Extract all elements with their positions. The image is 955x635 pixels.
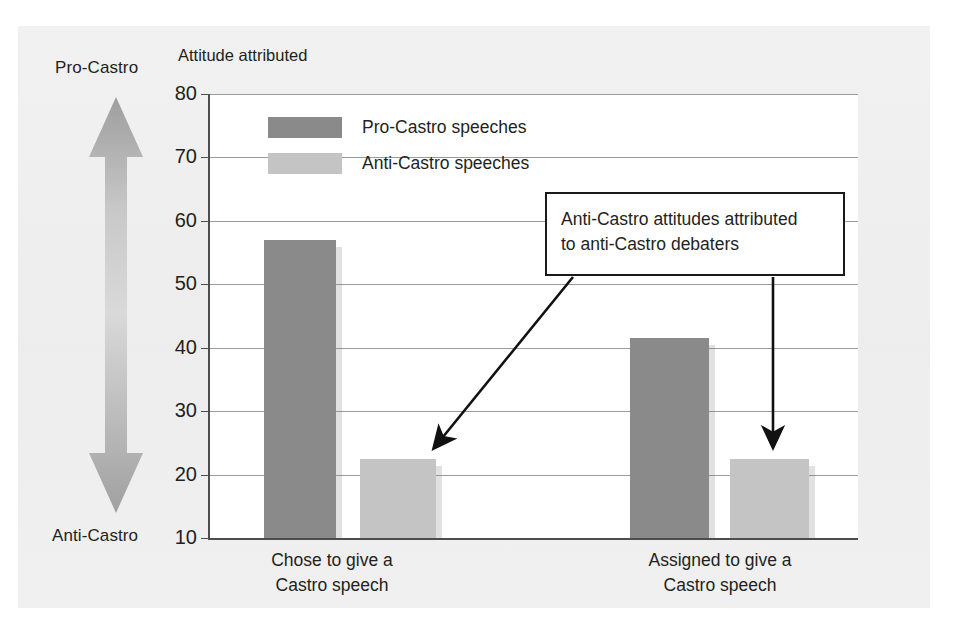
bar-body bbox=[730, 459, 809, 538]
bar-pro-castro-assigned bbox=[630, 338, 715, 538]
bar-anti-castro-chose bbox=[360, 459, 442, 538]
ytick-label-30: 30 bbox=[155, 399, 197, 422]
legend-label-anti-castro: Anti-Castro speeches bbox=[362, 153, 529, 174]
legend-swatch-pro-castro bbox=[268, 117, 342, 138]
category-label-line1: Chose to give a bbox=[222, 548, 442, 573]
tick-60 bbox=[201, 221, 210, 222]
scale-bottom-label: Anti-Castro bbox=[52, 526, 138, 546]
bar-body bbox=[630, 338, 709, 538]
bar-body bbox=[360, 459, 436, 538]
tick-30 bbox=[201, 411, 210, 412]
ytick-label-10: 10 bbox=[155, 526, 197, 549]
plot-area: Pro-Castro speeches Anti-Castro speeches bbox=[208, 94, 858, 540]
axis-title: Attitude attributed bbox=[178, 46, 307, 65]
legend-label-pro-castro: Pro-Castro speeches bbox=[362, 117, 526, 138]
legend-swatch-anti-castro bbox=[268, 153, 342, 174]
tick-50 bbox=[201, 284, 210, 285]
gridline-80 bbox=[210, 94, 858, 95]
tick-40 bbox=[201, 348, 210, 349]
figure-root: Attitude attributed Pro-Castro Anti-Cast… bbox=[0, 0, 955, 635]
legend-item-anti-castro: Anti-Castro speeches bbox=[268, 148, 529, 178]
tick-70 bbox=[201, 157, 210, 158]
legend: Pro-Castro speeches Anti-Castro speeches bbox=[268, 112, 529, 184]
category-label-line1: Assigned to give a bbox=[600, 548, 840, 573]
ytick-label-80: 80 bbox=[155, 82, 197, 105]
annotation-line-2: to anti-Castro debaters bbox=[561, 232, 843, 257]
ytick-label-50: 50 bbox=[155, 272, 197, 295]
tick-20 bbox=[201, 475, 210, 476]
bar-pro-castro-chose bbox=[264, 240, 342, 538]
category-label-line2: Castro speech bbox=[600, 573, 840, 598]
category-label-line2: Castro speech bbox=[222, 573, 442, 598]
bar-body bbox=[264, 240, 336, 538]
annotation-callout: Anti-Castro attitudes attributed to anti… bbox=[545, 192, 845, 276]
ytick-label-60: 60 bbox=[155, 209, 197, 232]
annotation-line-1: Anti-Castro attitudes attributed bbox=[561, 207, 843, 232]
scale-top-label: Pro-Castro bbox=[55, 58, 138, 78]
tick-80 bbox=[201, 94, 210, 95]
category-label-assigned: Assigned to give a Castro speech bbox=[600, 548, 840, 598]
tick-10 bbox=[201, 538, 210, 539]
ytick-label-20: 20 bbox=[155, 463, 197, 486]
ytick-label-40: 40 bbox=[155, 336, 197, 359]
legend-item-pro-castro: Pro-Castro speeches bbox=[268, 112, 529, 142]
category-label-chose: Chose to give a Castro speech bbox=[222, 548, 442, 598]
double-headed-vertical-arrow-icon bbox=[85, 95, 147, 515]
ytick-label-70: 70 bbox=[155, 145, 197, 168]
bar-anti-castro-assigned bbox=[730, 459, 815, 538]
